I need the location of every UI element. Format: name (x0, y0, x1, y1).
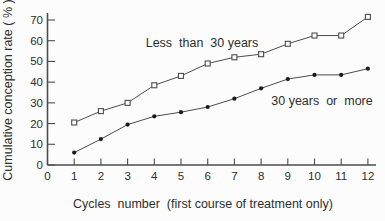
data-point-open-square (205, 61, 210, 66)
x-tick-label: 9 (285, 170, 291, 182)
y-tick-label: 40 (30, 76, 43, 88)
data-point-open-square (339, 33, 344, 38)
data-point-open-square (72, 120, 77, 125)
y-axis-label: Cumulative conception rate ( % ) (1, 0, 15, 181)
data-point-filled-circle (366, 67, 370, 71)
data-point-open-square (259, 52, 264, 57)
y-tick-label: 30 (30, 97, 43, 109)
data-point-filled-circle (259, 86, 263, 90)
y-tick-label: 50 (30, 55, 43, 67)
x-axis-label: Cycles number (first course of treatment… (73, 197, 333, 211)
x-tick-label: 7 (231, 170, 237, 182)
x-tick-label: 10 (308, 170, 321, 182)
y-tick-label: 70 (30, 14, 43, 26)
data-point-filled-circle (286, 77, 290, 81)
chart: 0102030405060700123456789101112 Less tha… (0, 0, 385, 221)
data-point-open-square (232, 55, 237, 60)
x-tick-label: 8 (258, 170, 264, 182)
x-tick-label: 5 (178, 170, 184, 182)
data-point-filled-circle (312, 73, 316, 77)
x-tick-label: 2 (98, 170, 104, 182)
y-tick-label: 60 (30, 35, 43, 47)
data-point-open-square (285, 41, 290, 46)
x-tick-label: 4 (151, 170, 158, 182)
data-point-open-square (179, 73, 184, 78)
data-point-filled-circle (232, 97, 236, 101)
data-point-open-square (125, 100, 130, 105)
data-point-filled-circle (152, 114, 156, 118)
x-tick-label: 12 (362, 170, 375, 182)
x-tick-label: 1 (71, 170, 77, 182)
data-point-filled-circle (339, 73, 343, 77)
y-tick-label: 10 (30, 138, 43, 150)
chart-svg: 0102030405060700123456789101112 Less tha… (0, 0, 385, 221)
y-tick-label: 20 (30, 118, 43, 130)
x-tick-label: 0 (44, 170, 50, 182)
data-point-filled-circle (126, 123, 130, 127)
data-point-filled-circle (72, 150, 76, 154)
data-point-open-square (152, 83, 157, 88)
data-point-filled-circle (179, 110, 183, 114)
series-label-over-30: 30 years or more (271, 94, 372, 108)
data-point-open-square (98, 109, 103, 114)
series-line (74, 69, 368, 153)
data-point-filled-circle (99, 137, 103, 141)
data-point-open-square (365, 14, 370, 19)
series-label-under-30: Less than 30 years (146, 36, 259, 50)
data-point-filled-circle (206, 105, 210, 109)
x-tick-label: 11 (335, 170, 347, 182)
x-tick-label: 6 (204, 170, 210, 182)
y-tick-label: 0 (37, 159, 43, 171)
data-point-open-square (312, 33, 317, 38)
x-tick-label: 3 (124, 170, 130, 182)
